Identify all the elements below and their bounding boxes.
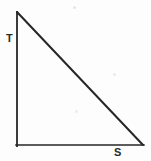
- vertex-label-s: S: [114, 147, 121, 158]
- triangle-figure: [0, 0, 151, 161]
- vertex-label-t: T: [6, 33, 13, 44]
- triangle-hypotenuse: [17, 12, 143, 145]
- geometry-diagram-canvas: T S: [0, 0, 151, 161]
